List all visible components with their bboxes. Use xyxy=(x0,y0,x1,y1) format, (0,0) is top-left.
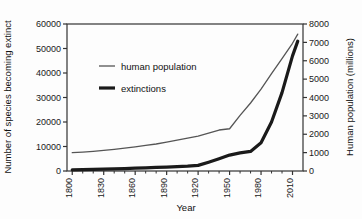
y-right-tick-label: 8000 xyxy=(309,19,329,29)
y-left-tick-label: 30000 xyxy=(36,93,61,103)
y-left-tick-label: 20000 xyxy=(36,117,61,127)
y-right-tick-label: 7000 xyxy=(309,38,329,48)
x-tick-label: 1920 xyxy=(190,178,200,198)
x-axis-title: Year xyxy=(176,202,195,213)
x-tick-label: 1830 xyxy=(96,178,106,198)
x-tick-label: 1980 xyxy=(253,178,263,198)
y-axis-left-title: Number of species becoming extinct xyxy=(2,20,13,173)
chart-figure: 18001830186018901920195019802010 0100002… xyxy=(0,0,362,219)
chart-background xyxy=(0,0,362,219)
y-right-tick-label: 4000 xyxy=(309,93,329,103)
x-tick-label: 2010 xyxy=(285,178,295,198)
y-right-tick-label: 5000 xyxy=(309,74,329,84)
x-tick-label: 1800 xyxy=(64,178,74,198)
legend-label-extinctions: extinctions xyxy=(121,83,166,94)
y-right-tick-label: 0 xyxy=(309,166,314,176)
y-right-tick-label: 2000 xyxy=(309,129,329,139)
x-tick-label: 1890 xyxy=(159,178,169,198)
legend-label-human-population: human population xyxy=(121,61,197,72)
y-right-tick-label: 6000 xyxy=(309,56,329,66)
y-left-tick-label: 40000 xyxy=(36,68,61,78)
y-left-tick-label: 60000 xyxy=(36,19,61,29)
y-left-tick-label: 0 xyxy=(56,166,61,176)
x-tick-label: 1950 xyxy=(222,178,232,198)
y-axis-right-tick-labels: 010002000300040005000600070008000 xyxy=(309,19,329,176)
y-right-tick-label: 1000 xyxy=(309,148,329,158)
extinctions-vs-population-chart: 18001830186018901920195019802010 0100002… xyxy=(0,0,362,219)
y-left-tick-label: 10000 xyxy=(36,142,61,152)
y-left-tick-label: 50000 xyxy=(36,44,61,54)
y-right-tick-label: 3000 xyxy=(309,111,329,121)
x-tick-label: 1860 xyxy=(127,178,137,198)
y-axis-right-title: Human population (millions) xyxy=(344,38,355,156)
